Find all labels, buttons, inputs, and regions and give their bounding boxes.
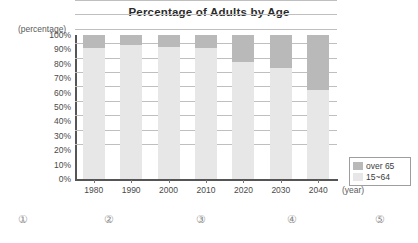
bar-segment-over-65: [232, 35, 254, 62]
answer-choice-2[interactable]: ②: [104, 213, 114, 226]
legend-item: 15~64: [353, 171, 407, 182]
stacked-bar: [83, 35, 105, 179]
bar-segment-working-age: [232, 62, 254, 179]
y-axis-tick-label: 100%: [49, 30, 71, 40]
bar-segment-over-65: [195, 35, 217, 48]
y-axis-tick-label: 20%: [54, 145, 71, 155]
legend-swatch-icon: [353, 162, 363, 170]
bar-segment-working-age: [83, 48, 105, 179]
y-axis-tick-label: 10%: [54, 160, 71, 170]
x-axis-tick-mark: [206, 180, 207, 183]
legend-item-label: over 65: [366, 161, 394, 171]
x-axis-tick-mark: [243, 180, 244, 183]
answer-choice-5[interactable]: ⑤: [375, 213, 385, 226]
y-axis-tick-label: 0%: [59, 174, 71, 184]
bar-segment-working-age: [195, 48, 217, 179]
answer-choice-4[interactable]: ④: [287, 213, 297, 226]
bar-segment-over-65: [270, 35, 292, 68]
bar-segment-working-age: [270, 68, 292, 179]
gridline: [75, 0, 337, 1]
bar-segment-over-65: [83, 35, 105, 48]
x-axis-tick-mark: [318, 180, 319, 183]
legend-item-label: 15~64: [366, 172, 390, 182]
y-axis-tick-label: 90%: [54, 44, 71, 54]
y-axis-tick-label: 50%: [54, 102, 71, 112]
bar-segment-over-65: [158, 35, 180, 47]
bar-segment-working-age: [158, 47, 180, 179]
stacked-bar: [307, 35, 329, 179]
stacked-bar: [270, 35, 292, 179]
x-axis-tick-mark: [131, 180, 132, 183]
bar-segment-over-65: [307, 35, 329, 90]
bar-segment-over-65: [120, 35, 142, 45]
legend-item: over 65: [353, 160, 407, 171]
y-axis-tick-label: 80%: [54, 59, 71, 69]
chart-screenshot: Percentage of Adults by Age (percentage)…: [0, 0, 418, 243]
x-axis-tick-mark: [94, 180, 95, 183]
x-axis-unit-label: (year): [342, 185, 364, 195]
stacked-bar: [232, 35, 254, 179]
stacked-bar: [195, 35, 217, 179]
chart-legend: over 6515~64: [349, 157, 411, 186]
x-axis-tick-mark: [281, 180, 282, 183]
page-title: Percentage of Adults by Age: [0, 6, 418, 18]
bar-segment-working-age: [120, 45, 142, 179]
answer-choice-1[interactable]: ①: [18, 213, 28, 226]
legend-swatch-icon: [353, 173, 363, 181]
stacked-bar: [120, 35, 142, 179]
x-axis-tick-mark: [169, 180, 170, 183]
bar-segment-working-age: [307, 90, 329, 179]
stacked-bar: [158, 35, 180, 179]
answer-choice-3[interactable]: ③: [196, 213, 206, 226]
y-axis-tick-label: 40%: [54, 116, 71, 126]
gridline: [75, 29, 337, 30]
y-axis-tick-label: 60%: [54, 88, 71, 98]
y-axis-tick-label: 30%: [54, 131, 71, 141]
gridline: [75, 14, 337, 15]
y-axis-tick-label: 70%: [54, 73, 71, 83]
x-axis-tick-label: 2040: [296, 185, 340, 195]
